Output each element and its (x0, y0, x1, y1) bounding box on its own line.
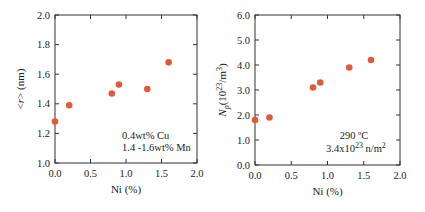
x-tick-label: 1.0 (119, 168, 132, 179)
x-axis-label: Ni (%) (111, 183, 142, 196)
x-tick-label: 0.5 (285, 170, 298, 181)
data-point (310, 84, 317, 91)
x-tick-label: 0.5 (84, 168, 97, 179)
x-tick-label: 1.0 (321, 170, 334, 181)
y-tick-label: 2.0 (37, 10, 50, 21)
data-point (266, 114, 273, 121)
data-point (66, 102, 73, 109)
data-point (368, 57, 375, 64)
data-point (116, 81, 123, 88)
y-tick-label: 3.0 (237, 85, 250, 96)
y-tick-label: 1.8 (37, 39, 50, 50)
x-tick-label: 0.0 (48, 168, 61, 179)
data-point (317, 79, 324, 86)
y-tick-label: 5.0 (237, 35, 250, 46)
x-tick-label: 1.5 (357, 170, 370, 181)
left-chart-plot: 0.00.51.01.52.01.01.21.41.61.82.0Ni (%)<… (0, 0, 212, 212)
y-tick-label: 1.4 (37, 98, 51, 109)
data-point (109, 90, 116, 97)
data-point (252, 117, 259, 124)
y-tick-label: 6.0 (237, 10, 250, 21)
y-tick-label: 1.0 (237, 135, 250, 146)
x-tick-label: 2.0 (190, 168, 203, 179)
y-tick-label: 1.6 (37, 69, 50, 80)
x-tick-label: 0.0 (248, 170, 261, 181)
data-point (165, 59, 172, 66)
annotation-composition-cu: 0.4wt% Cu (122, 130, 170, 141)
y-axis-label: <r> (nm) (14, 68, 27, 109)
annotation-fluence: 3.4x1023 n/m2 (326, 141, 386, 154)
y-tick-label: 4.0 (237, 60, 250, 71)
data-point (144, 86, 151, 93)
annotation-temperature: 290 ºC (340, 130, 369, 141)
data-point (346, 64, 353, 71)
x-axis-label: Ni (%) (312, 185, 343, 198)
right-chart-plot: 0.00.51.01.52.00.01.02.03.04.05.06.0Ni (… (212, 0, 425, 212)
y-tick-label: 1.2 (37, 128, 50, 139)
y-tick-label: 0.0 (237, 160, 250, 171)
left-chart-radius: 0.00.51.01.52.01.01.21.41.61.82.0Ni (%)<… (0, 0, 212, 212)
y-tick-label: 1.0 (37, 158, 50, 169)
data-point (52, 118, 59, 125)
y-axis-label: Np(1023/m3) (215, 63, 231, 118)
y-tick-label: 2.0 (237, 110, 250, 121)
x-tick-label: 2.0 (393, 170, 406, 181)
right-chart-density: 0.00.51.01.52.00.01.02.03.04.05.06.0Ni (… (212, 0, 425, 212)
annotation-composition-mn: 1.4 -1.6wt% Mn (122, 142, 192, 153)
x-tick-label: 1.5 (155, 168, 168, 179)
